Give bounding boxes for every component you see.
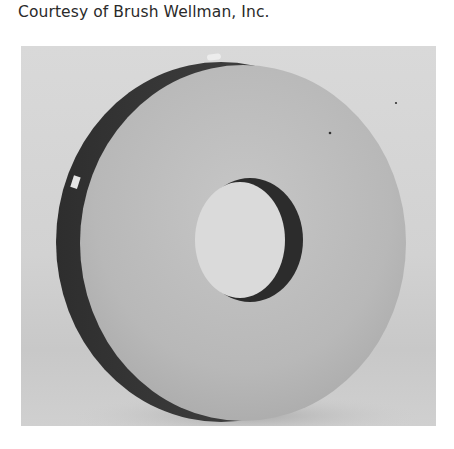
rim-mark-top — [207, 53, 222, 61]
center-hole — [195, 182, 285, 298]
disc-illustration — [21, 46, 436, 426]
product-photo — [21, 46, 436, 426]
speck — [329, 132, 332, 135]
speck — [395, 102, 397, 104]
photo-credit-caption: Courtesy of Brush Wellman, Inc. — [18, 3, 270, 21]
